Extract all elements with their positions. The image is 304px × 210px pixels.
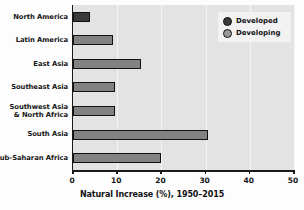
x-tick-label: 10 [101, 176, 131, 185]
category-label: Southwest Asia& North Africa [0, 103, 68, 120]
x-tick-label: 30 [190, 176, 220, 185]
category-label: Southeast Asia [0, 83, 68, 91]
x-tick-mark-10 [116, 170, 118, 174]
bar-row [73, 123, 294, 147]
x-tick-label: 0 [57, 176, 87, 185]
bar-row [73, 99, 294, 123]
category-label-line: Latin America [0, 36, 68, 44]
x-axis-title: Natural Increase (%), 1950–2015 [0, 190, 304, 199]
bar-row [73, 52, 294, 76]
category-label-line: & North Africa [0, 111, 68, 119]
legend-swatch-icon [223, 29, 232, 38]
category-label-line: South Asia [0, 130, 68, 138]
x-tick-label: 50 [278, 176, 304, 185]
x-axis-line [72, 170, 294, 172]
legend-swatch-icon [223, 17, 232, 26]
legend-item: Developed [223, 15, 287, 27]
bar-row [73, 76, 294, 100]
legend-label: Developing [236, 29, 280, 37]
chart-legend: DevelopedDeveloping [218, 12, 291, 42]
bar [73, 106, 115, 116]
category-label: Sub-Saharan Africa [0, 154, 68, 162]
bar [73, 153, 161, 163]
bar [73, 82, 115, 92]
bar [73, 59, 141, 69]
category-label-line: Southwest Asia [0, 103, 68, 111]
legend-item: Developing [223, 27, 287, 39]
bar [73, 130, 208, 140]
bar-chart: North AmericaLatin AmericaEast AsiaSouth… [0, 0, 304, 210]
x-tick-mark-50 [293, 170, 295, 174]
category-label-line: East Asia [0, 60, 68, 68]
x-tick-mark-0 [72, 170, 74, 174]
category-label: Latin America [0, 36, 68, 44]
bar-row [73, 146, 294, 170]
x-tick-label: 20 [145, 176, 175, 185]
category-label: South Asia [0, 130, 68, 138]
x-tick-mark-20 [160, 170, 162, 174]
category-label-line: Southeast Asia [0, 83, 68, 91]
bar [73, 35, 113, 45]
category-label-line: North America [0, 13, 68, 21]
category-label: East Asia [0, 60, 68, 68]
legend-label: Developed [236, 17, 278, 25]
x-tick-mark-40 [249, 170, 251, 174]
gridline-x-50 [294, 5, 295, 170]
category-label: North America [0, 13, 68, 21]
x-tick-mark-30 [205, 170, 207, 174]
category-label-line: Sub-Saharan Africa [0, 154, 68, 162]
bar [73, 12, 90, 22]
x-tick-label: 40 [234, 176, 264, 185]
